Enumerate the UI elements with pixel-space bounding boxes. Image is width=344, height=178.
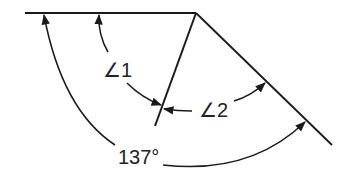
angle-diagram: ∠1 ∠2 137° bbox=[0, 0, 344, 178]
angle2-arc-right bbox=[234, 83, 265, 101]
angle1-arc-upper bbox=[99, 15, 108, 52]
total-angle-label: 137° bbox=[118, 147, 159, 167]
total-arc-right bbox=[163, 122, 305, 167]
angle2-arc-left bbox=[164, 109, 192, 111]
right-ray bbox=[196, 13, 332, 145]
angle1-arc-lower bbox=[127, 83, 161, 105]
middle-ray bbox=[155, 13, 196, 126]
angle2-label: ∠2 bbox=[199, 100, 228, 120]
angle1-label: ∠1 bbox=[103, 60, 132, 80]
angle-figure bbox=[0, 0, 344, 178]
